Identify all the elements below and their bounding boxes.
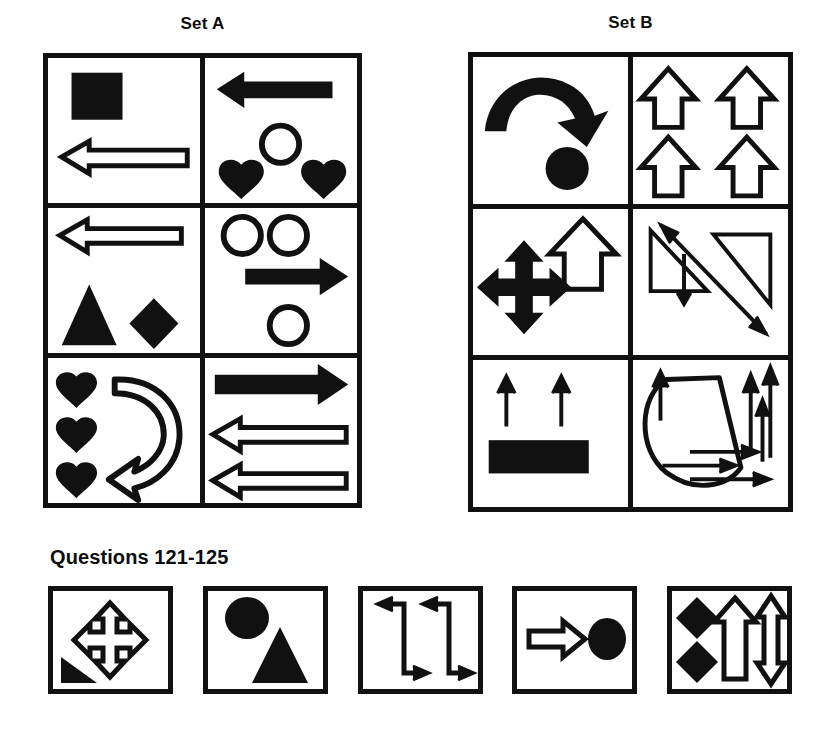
outline-up-arrow [641,69,696,128]
cell-a3[interactable] [48,208,200,353]
cell-b5[interactable] [473,360,628,507]
cell-b3[interactable] [473,209,628,356]
filled-rectangle [489,441,589,474]
question-box-125[interactable] [667,586,792,694]
question-box-124[interactable] [512,586,637,694]
filled-heart [56,462,97,498]
cell-a5[interactable] [48,358,200,503]
question-box-121[interactable] [48,586,173,694]
thin-up-arrow [552,376,570,427]
questions-row [48,586,792,694]
outline-up-arrow [714,598,756,679]
cell-a6[interactable] [205,358,357,503]
outline-left-arrow [213,419,346,451]
outline-up-arrow [641,137,696,196]
cell-a4[interactable] [205,208,357,353]
filled-diamond [676,597,718,639]
outline-up-arrow [719,137,774,196]
set-b-grid [468,52,793,512]
zigzag-arrow [422,597,474,680]
outline-circle [270,307,307,344]
cell-b2[interactable] [633,57,788,204]
filled-right-arrow [245,258,348,295]
question-box-123[interactable] [358,586,483,694]
outline-curved-arrow [109,379,180,500]
outline-triangle [713,234,770,304]
outline-right-arrow [529,621,585,657]
set-b-title: Set B [468,13,793,33]
filled-right-arrow [215,364,348,405]
cell-a2[interactable] [205,58,357,203]
filled-circle [546,147,589,190]
filled-circle [588,618,626,660]
filled-curved-arrow [485,77,609,147]
filled-triangle [252,627,308,683]
outline-circle [224,217,261,254]
outline-triangle [651,230,708,291]
filled-left-arrow [217,72,333,108]
thin-right-arrow [690,445,759,459]
cell-b4[interactable] [633,209,788,356]
thin-up-arrow [498,376,516,427]
outline-circle [270,217,307,254]
filled-heart [219,160,264,199]
outline-circle [262,126,299,163]
outline-double-headed-vertical-arrow [757,596,785,684]
filled-heart [56,372,97,408]
filled-heart [301,160,346,199]
filled-heart [56,417,97,453]
cell-b6[interactable] [633,360,788,507]
outline-left-arrow [60,220,182,252]
thin-right-arrow [662,459,737,473]
set-a-grid [43,53,362,508]
questions-title: Questions 121-125 [50,546,228,569]
zigzag-arrow [377,597,429,680]
filled-triangle [62,284,117,345]
outline-up-arrow [719,69,774,128]
filled-diamond [129,298,178,349]
cell-b1[interactable] [473,57,628,204]
outline-four-way-arrow [74,603,146,677]
filled-square [72,73,123,120]
cell-a1[interactable] [48,58,200,203]
set-a-title: Set A [43,14,362,34]
question-box-122[interactable] [203,586,328,694]
filled-diamond [676,641,718,683]
outline-left-arrow [62,141,188,173]
puzzle-sheet: Set A [0,0,840,729]
outline-left-arrow [213,465,346,497]
filled-ellipse [225,597,269,639]
